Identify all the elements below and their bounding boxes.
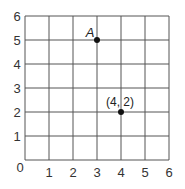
x-axis-ticks: 0123456 <box>16 160 172 180</box>
y-tick-label: 6 <box>13 9 20 24</box>
y-tick-label: 2 <box>13 105 20 120</box>
point-marker <box>94 37 100 43</box>
plotted-points: A(4, 2) <box>85 25 134 115</box>
y-axis-ticks: 123456 <box>13 9 20 144</box>
y-tick-label: 4 <box>13 57 20 72</box>
y-tick-label: 1 <box>13 129 20 144</box>
point-label: A <box>85 25 95 40</box>
point-marker <box>118 109 124 115</box>
x-tick-label: 6 <box>165 165 172 180</box>
x-tick-label: 2 <box>69 165 76 180</box>
x-tick-label: 0 <box>16 160 23 175</box>
y-tick-label: 3 <box>13 81 20 96</box>
x-tick-label: 3 <box>93 165 100 180</box>
coordinate-grid: 0123456 123456 A(4, 2) <box>0 0 185 189</box>
point-label: (4, 2) <box>106 95 134 109</box>
x-tick-label: 1 <box>45 165 52 180</box>
x-tick-label: 5 <box>141 165 148 180</box>
x-tick-label: 4 <box>117 165 124 180</box>
y-tick-label: 5 <box>13 33 20 48</box>
